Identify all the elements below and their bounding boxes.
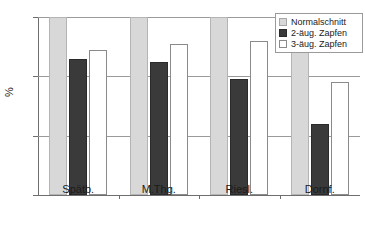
bar: [210, 17, 228, 195]
legend-item-normalschnitt: Normalschnitt: [279, 17, 359, 27]
bar-group: [119, 17, 200, 195]
bar-group: [38, 17, 119, 195]
y-tick-40: [33, 195, 38, 196]
bar: [89, 50, 107, 195]
bar: [130, 17, 148, 195]
x-tick: [119, 195, 120, 199]
legend-label-zapfen2: 2-äug. Zapfen: [291, 28, 347, 38]
legend-swatch-zapfen3: [279, 40, 287, 48]
x-tick: [199, 195, 200, 199]
bar: [230, 79, 248, 195]
bar: [331, 82, 349, 195]
legend: Normalschnitt 2-äug. Zapfen 3-äug. Zapfe…: [275, 13, 363, 53]
bar: [69, 59, 87, 195]
x-tick: [280, 195, 281, 199]
category-label: Riesl.: [225, 183, 253, 195]
bar: [250, 41, 268, 195]
legend-item-zapfen3: 3-äug. Zapfen: [279, 39, 359, 49]
category-label: Spätb.: [62, 183, 94, 195]
legend-label-normalschnitt: Normalschnitt: [291, 17, 346, 27]
category-label: M.Thg.: [142, 183, 176, 195]
legend-swatch-zapfen2: [279, 29, 287, 37]
bar: [170, 44, 188, 195]
legend-item-zapfen2: 2-äug. Zapfen: [279, 28, 359, 38]
bar-chart: 406080100 Spätb.M.Thg.Riesl.Dornf. % Nor…: [0, 0, 365, 231]
y-axis-title: %: [3, 87, 15, 97]
bar: [150, 62, 168, 196]
bar-group: [199, 17, 280, 195]
legend-label-zapfen3: 3-äug. Zapfen: [291, 39, 347, 49]
bar: [49, 17, 67, 195]
legend-swatch-normalschnitt: [279, 18, 287, 26]
category-label: Dornf.: [305, 183, 335, 195]
